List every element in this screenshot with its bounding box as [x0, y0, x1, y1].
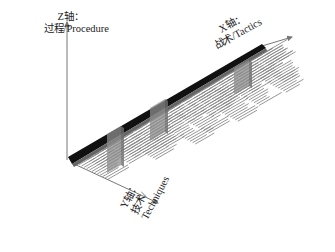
technique-entry [233, 106, 256, 119]
technique-entry [235, 107, 258, 120]
z-axis-label-line2: 过程/Procedure [0, 23, 109, 35]
technique-entry [238, 110, 257, 121]
technique-entry [195, 133, 214, 144]
procedure-pillar-1 [107, 126, 124, 173]
matrix-drawing [0, 0, 335, 252]
technique-entry [153, 144, 177, 158]
procedure-pillar-2 [150, 99, 168, 141]
technique-entry [196, 116, 214, 127]
technique-entry [203, 116, 228, 130]
z-axis-label: Z轴： 过程/Procedure [4, 11, 114, 35]
technique-entry [263, 39, 288, 53]
attack-3d-matrix-diagram: Z轴： 过程/Procedure X轴： 战术/Tactics Y轴： 技术/ … [0, 0, 335, 252]
x-axis [262, 37, 292, 46]
technique-entry [150, 146, 168, 157]
technique-entry [155, 149, 173, 160]
technique-entry [249, 89, 268, 100]
technique-entry [268, 60, 292, 74]
technique-entry [259, 92, 282, 105]
technique-entry [279, 52, 296, 62]
z-axis-label-line1: Z轴： [4, 11, 114, 23]
technique-entry [251, 92, 268, 102]
technique-entry [230, 107, 248, 117]
technique-entry [276, 67, 296, 78]
